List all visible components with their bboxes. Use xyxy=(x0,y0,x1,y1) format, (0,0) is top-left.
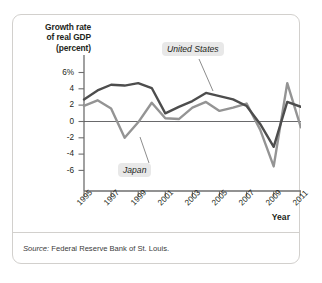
series-line-japan xyxy=(84,83,301,166)
y-tick-label-neg2: -2 xyxy=(52,133,74,142)
series-line-united-states xyxy=(84,83,301,147)
y-tick-label-neg4: -4 xyxy=(52,149,74,158)
y-tick-label-4: 4 xyxy=(52,84,74,93)
y-tick-label-0: 0 xyxy=(52,117,74,126)
figure-panel: Growth rate of real GDP (percent) xyxy=(12,14,300,264)
leader-line-united-states xyxy=(199,59,213,91)
y-tick-label-6: 6% xyxy=(52,68,74,77)
plot-area: Growth rate of real GDP (percent) xyxy=(13,15,301,265)
source-note: Source: Federal Reserve Bank of St. Loui… xyxy=(23,244,169,253)
y-tick-label-2: 2 xyxy=(52,100,74,109)
source-text: Federal Reserve Bank of St. Louis. xyxy=(51,244,169,253)
y-tick-label-neg6: -6 xyxy=(52,166,74,175)
leader-line-japan xyxy=(140,137,149,163)
series-annotation-united-states: United States xyxy=(162,42,224,56)
x-axis-title: Year xyxy=(272,212,290,222)
source-prefix: Source: xyxy=(23,244,49,253)
y-axis-ticks xyxy=(79,73,85,171)
series-annotation-japan: Japan xyxy=(118,163,151,177)
source-divider xyxy=(13,232,299,233)
